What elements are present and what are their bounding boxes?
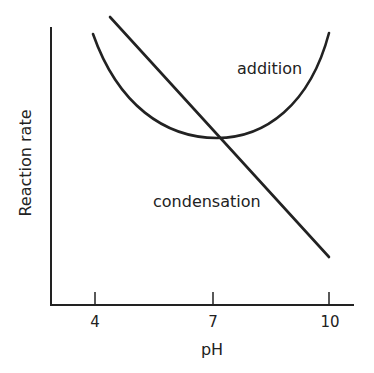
y-axis-title: Reaction rate <box>16 109 35 216</box>
x-tick-label-10: 10 <box>320 313 339 331</box>
condensation-line <box>110 17 329 257</box>
condensation-label: condensation <box>153 192 261 211</box>
addition-label: addition <box>237 59 302 78</box>
reaction-rate-chart: 4 7 10 pH Reaction rate addition condens… <box>0 0 374 373</box>
x-tick-label-4: 4 <box>90 313 100 331</box>
addition-curve <box>93 33 329 138</box>
x-tick-label-7: 7 <box>208 313 218 331</box>
x-axis-title: pH <box>201 340 223 359</box>
